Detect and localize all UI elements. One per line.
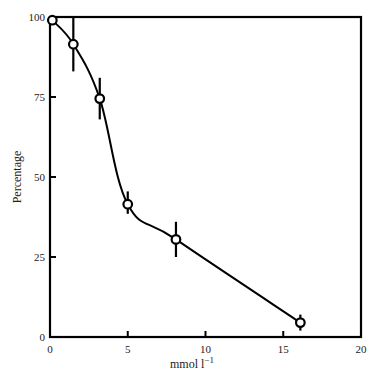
y-axis-title: Percentage [10, 151, 24, 204]
y-tick-label: 0 [40, 331, 46, 343]
data-curve [52, 20, 300, 322]
plot-border [50, 17, 361, 337]
data-point-marker [296, 318, 305, 327]
error-bars [73, 17, 300, 331]
data-point-marker [172, 235, 181, 244]
data-point-marker [95, 94, 104, 103]
plot-frame [50, 17, 361, 337]
x-tick-label: 20 [356, 343, 368, 355]
y-tick-label: 50 [34, 171, 46, 183]
axis-ticks: 051015200255075100 [29, 11, 368, 355]
data-point-marker [123, 200, 132, 209]
line-chart: 051015200255075100 Percentage mmol l−1 [0, 0, 381, 383]
data-point-marker [69, 40, 78, 49]
data-point-marker [48, 16, 57, 25]
data-points [48, 16, 305, 327]
x-tick-label: 15 [278, 343, 290, 355]
y-tick-label: 100 [29, 11, 46, 23]
x-tick-label: 5 [125, 343, 131, 355]
y-tick-label: 25 [34, 251, 46, 263]
x-tick-label: 0 [47, 343, 53, 355]
series-line [52, 20, 300, 322]
y-tick-label: 75 [34, 91, 46, 103]
x-tick-label: 10 [200, 343, 212, 355]
x-axis-title: mmol l−1 [170, 355, 214, 371]
